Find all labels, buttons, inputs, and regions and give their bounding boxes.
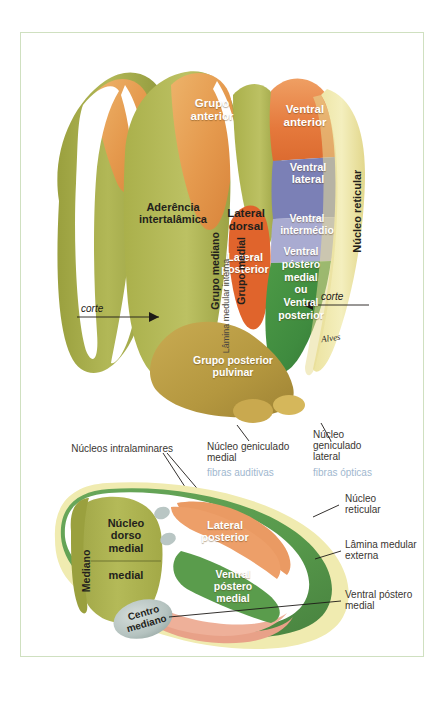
label-ventral-postero-medial-bottom: Ventral póstero medial	[197, 569, 269, 604]
callout-nucleo-geniculado-lateral: Núcleo geniculado lateral	[313, 429, 405, 463]
callout-nucleo-geniculado-medial: Núcleo geniculado medial	[207, 441, 299, 463]
label-lateral-posterior-bottom: Lateral posterior	[187, 519, 263, 544]
figure-frame: Grupo anterior Ventral anterior Ventral …	[20, 32, 424, 657]
label-medial: medial	[93, 569, 159, 581]
label-lamina-medular-interna: Lâmina medular interna	[221, 232, 231, 380]
label-nucleo-dorso-medial: Núcleo dorso medial	[93, 517, 159, 554]
label-grupo-anterior: Grupo anterior	[173, 97, 251, 123]
callout-ventral-postero-medial: Ventral póstero medial	[345, 589, 431, 611]
label-ventral-postero-medial: Ventral póstero medial ou Ventral poster…	[261, 245, 341, 322]
label-lateral-dorsal: Lateral dorsal	[213, 207, 279, 233]
callout-lamina-medular-externa: Lâmina medular externa	[345, 539, 431, 561]
callout-nucleos-intralaminares: Núcleos intralaminares	[43, 443, 173, 454]
label-ventral-anterior: Ventral anterior	[261, 103, 349, 129]
label-corte-left: corte	[81, 303, 103, 314]
label-ventral-lateral: Ventral lateral	[269, 161, 347, 186]
label-grupo-posterior-pulvinar: Grupo posterior pulvinar	[163, 355, 303, 379]
label-mediano: Mediano	[81, 538, 93, 604]
label-nucleo-reticular: Núcleo reticular	[351, 149, 363, 273]
bottom-diagram: Mediano Núcleo dorso medial medial Centr…	[21, 477, 425, 658]
top-diagram: Grupo anterior Ventral anterior Ventral …	[21, 33, 425, 433]
label-corte-right: corte	[321, 291, 343, 302]
callout-nucleo-reticular-bottom: Núcleo reticular	[345, 493, 425, 515]
